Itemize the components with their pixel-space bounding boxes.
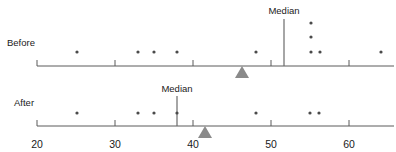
dot-after-35 [152,111,155,114]
dot-before-25 [75,50,78,53]
dot-before-55-3 [309,21,312,24]
x-tick-label-50: 50 [265,138,277,150]
dot-before-64 [379,50,382,53]
x-tick-label-20: 20 [31,138,43,150]
dot-plot-chart: Before Median Aft [0,0,396,152]
dot-after-38 [175,111,178,114]
dot-before-56 [318,50,321,53]
dot-after-56 [317,111,320,114]
before-row-label: Before [7,37,35,48]
after-row-label: After [14,97,34,108]
dot-after-25 [75,111,78,114]
dot-before-55-2 [309,35,312,38]
dot-after-33 [136,111,139,114]
x-tick-label-40: 40 [187,138,199,150]
dot-before-55-1 [309,50,312,53]
dot-after-48 [254,111,257,114]
dot-before-33 [136,50,139,53]
dot-before-48 [254,50,257,53]
dot-before-35 [152,50,155,53]
dot-before-38 [175,50,178,53]
x-tick-label-30: 30 [109,138,121,150]
dot-after-55 [308,111,311,114]
x-tick-label-60: 60 [343,138,355,150]
before-median-label: Median [268,5,299,16]
chart-background [0,0,396,152]
after-median-label: Median [161,83,192,94]
